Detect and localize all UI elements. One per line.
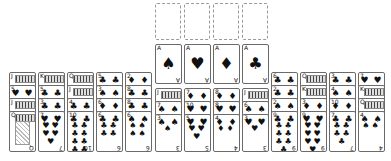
suit-pips-icon: ♥♥♥♥♥♥♥: [303, 122, 324, 145]
face-card-portrait-icon: [15, 121, 30, 145]
card-rank: J: [11, 99, 13, 105]
suit-pips-icon: ♠♠: [361, 122, 382, 145]
card-rank: A: [186, 45, 190, 51]
suit-spades-icon: ♠: [156, 56, 181, 72]
suit-icon: ♦ ♦: [301, 102, 326, 111]
face-card-art-icon: [364, 101, 384, 109]
card-rank-bottom: 6: [117, 145, 121, 151]
suit-pips-icon: ♣♣♣♣: [99, 122, 120, 145]
suit-icon: ♠ ♠: [97, 89, 122, 98]
suit-clubs-icon: ♣: [243, 56, 268, 72]
card-rank-bottom: 10: [84, 145, 92, 151]
suit-icon: ♦ ♦: [185, 92, 210, 101]
suit-icon: ♠ ♠: [243, 105, 268, 114]
suit-icon: ♥ ♥: [359, 76, 384, 85]
face-card-art-icon: [15, 75, 35, 83]
tableau-card[interactable]: 3♠ ♠♠3: [155, 114, 182, 152]
suit-diamonds-icon: ♦: [214, 56, 239, 72]
tableau-card[interactable]: 4♦ ♦♦♦4: [213, 114, 240, 152]
card-rank: A: [244, 45, 248, 51]
card-rank-bottom: 9: [321, 145, 325, 151]
card-rank: J: [244, 89, 246, 95]
face-card-art-icon: [73, 88, 93, 96]
foundation-slot[interactable]: [242, 3, 268, 40]
tableau-card[interactable]: 6♠ ♠♠♠♠♠6: [125, 111, 152, 152]
tableau-card[interactable]: 5♥ ♥♥♥♥5: [184, 114, 211, 152]
suit-icon: ♠ ♠: [272, 102, 297, 111]
suit-icon: ♣ ♣: [272, 76, 297, 85]
face-card-art-icon: [306, 88, 326, 96]
card-rank: J: [11, 73, 13, 79]
foundation-slot[interactable]: [184, 3, 210, 40]
ace-card-spades[interactable]: A ♠A: [155, 44, 182, 84]
tableau-card[interactable]: 4♠ ♠♠♠4: [358, 111, 385, 152]
suit-hearts-icon: ♥: [185, 56, 210, 72]
card-rank: A: [215, 45, 219, 51]
card-rank-bottom: 7: [350, 145, 354, 151]
card-rank-bottom: 9: [292, 145, 296, 151]
card-rank-bottom: A: [205, 77, 209, 83]
tableau-card[interactable]: 9♥ ♥♥♥♥♥♥♥♥9: [300, 111, 327, 152]
suit-icon: ♣ ♣: [97, 76, 122, 85]
suit-icon: ♣ ♣: [68, 102, 93, 111]
card-rank: J: [157, 89, 159, 95]
suit-icon: ♣ ♣: [126, 89, 151, 98]
suit-icon: ♥ ♥: [214, 105, 239, 114]
suit-pips-icon: ♣♣♣♣♣♣♣♣: [70, 122, 91, 145]
face-card-art-icon: [15, 101, 35, 109]
suit-pips-icon: ♣♣♣♣♣♣♣: [274, 122, 295, 145]
suit-icon: ♠ ♠: [330, 89, 355, 98]
tableau-card[interactable]: QQ: [9, 111, 36, 152]
suit-pips-icon: ♣♣♣♣♣: [332, 122, 353, 145]
suit-icon: ♥ ♥: [185, 105, 210, 114]
face-card-art-icon: [44, 75, 64, 83]
face-card-art-icon: [161, 91, 181, 99]
suit-icon: ♣ ♣: [39, 102, 64, 111]
suit-icon: ♠ ♠: [156, 105, 181, 114]
suit-pips-icon: ♥: [245, 125, 266, 145]
suit-icon: ♣ ♣: [272, 89, 297, 98]
foundation-slot[interactable]: [213, 3, 239, 40]
suit-icon: ♦ ♦: [126, 76, 151, 85]
tableau-card[interactable]: 6♣ ♣♣♣♣♣6: [96, 111, 123, 152]
card-rank-bottom: 7: [59, 145, 63, 151]
face-card-art-icon: [248, 91, 268, 99]
ace-card-diamonds[interactable]: A ♦A: [213, 44, 240, 84]
card-rank-bottom: A: [234, 77, 238, 83]
face-card-art-icon: [364, 88, 384, 96]
card-rank-bottom: 4: [379, 145, 383, 151]
suit-icon: ♦ ♦: [214, 92, 239, 101]
suit-icon: ♦ ♦: [97, 102, 122, 111]
tableau-card[interactable]: 10♣ ♣♣♣♣♣♣♣♣♣10: [67, 111, 94, 152]
card-rank: J: [69, 86, 71, 92]
suit-icon: ♣ ♣: [126, 102, 151, 111]
suit-icon: ♥ ♥: [10, 89, 35, 98]
card-rank-bottom: 6: [146, 145, 150, 151]
card-rank: A: [157, 45, 161, 51]
ace-card-hearts[interactable]: A ♥A: [184, 44, 211, 84]
face-card-art-icon: [306, 75, 326, 83]
suit-icon: ♣ ♣: [39, 89, 64, 98]
suit-pips-icon: ♥♥♥♥♥: [41, 122, 62, 145]
tableau-card[interactable]: 7♣ ♣♣♣♣♣♣7: [329, 111, 356, 152]
tableau-card[interactable]: 9♣ ♣♣♣♣♣♣♣♣9: [271, 111, 298, 152]
card-rank-bottom: A: [176, 77, 180, 83]
card-rank-bottom: 4: [234, 145, 238, 151]
foundation-slot[interactable]: [155, 3, 181, 40]
suit-icon: ♣ ♣: [330, 76, 355, 85]
tableau-card[interactable]: 3♥ ♥♥3: [242, 114, 269, 152]
card-rank-bottom: A: [263, 77, 267, 83]
card-rank-bottom: 3: [263, 145, 267, 151]
face-card-art-icon: [73, 75, 93, 83]
suit-pips-icon: ♠: [158, 125, 179, 145]
suit-pips-icon: ♥♥♥: [187, 125, 208, 145]
card-rank-bottom: Q: [29, 145, 34, 151]
suit-pips-icon: ♦♦: [216, 125, 237, 145]
ace-card-clubs[interactable]: A ♣A: [242, 44, 269, 84]
suit-pips-icon: ♠♠♠♠: [128, 122, 149, 145]
suit-icon: ♦ ♦: [330, 102, 355, 111]
card-rank-bottom: 3: [176, 145, 180, 151]
card-rank-bottom: 5: [205, 145, 209, 151]
tableau-card[interactable]: 7♥ ♥♥♥♥♥♥7: [38, 111, 65, 152]
